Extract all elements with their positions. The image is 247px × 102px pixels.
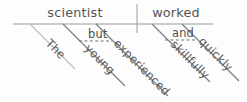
predicate-word-worked: worked — [152, 5, 200, 20]
subject-word-scientist: scientist — [47, 5, 102, 20]
diagram-canvas: scientist worked The young experienced s… — [0, 0, 247, 102]
conjunction-word-and: and — [172, 26, 194, 40]
modifier-word-experienced: experienced — [111, 36, 173, 98]
conjunction-word-but: but — [88, 27, 108, 41]
sentence-diagram: scientist worked The young experienced s… — [0, 0, 247, 102]
